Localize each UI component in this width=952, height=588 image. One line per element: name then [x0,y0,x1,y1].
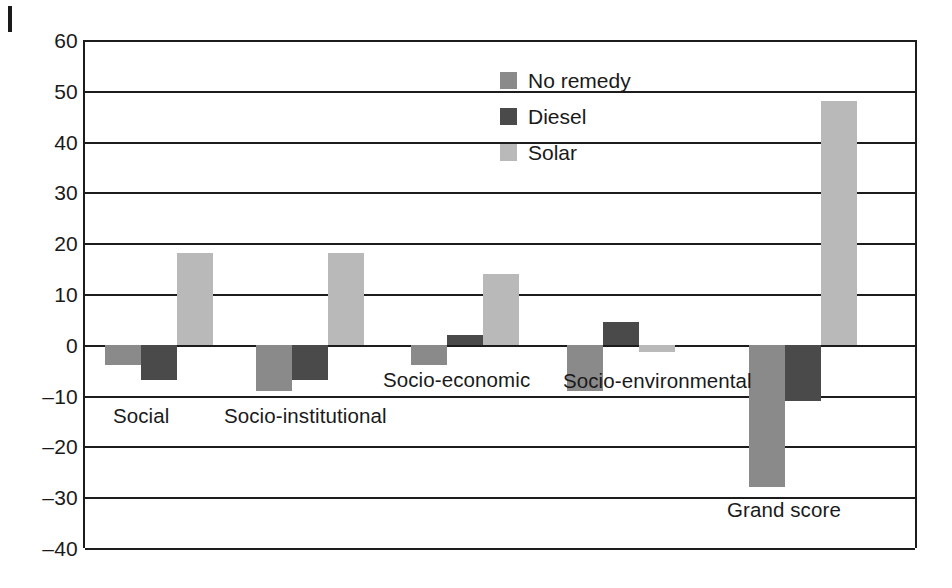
category-label: Socio-environmental [563,371,752,392]
category-label: Socio-institutional [224,406,387,427]
legend-item: Diesel [500,98,700,134]
legend-swatch-icon [500,72,517,89]
chart-figure: 6050403020100–10–20–30–40 SocialSocio-in… [0,0,952,588]
bar [749,345,785,487]
bar [256,345,292,391]
gridline-neg40 [85,548,915,550]
bar [821,101,857,345]
y-tick-label: 0 [4,334,78,355]
legend-label: Diesel [528,106,586,127]
bar [603,322,639,345]
legend-label: No remedy [528,70,631,91]
y-tick-label: 60 [4,30,78,51]
category-label: Socio-economic [383,370,530,391]
y-tick-label: 40 [4,131,78,152]
bar [639,345,675,353]
bar [483,274,519,345]
chart-legend: No remedyDieselSolar [500,62,700,170]
bar [292,345,328,381]
y-tick-label: 30 [4,182,78,203]
bar [141,345,177,381]
gridline-neg20 [85,446,915,448]
y-axis-tick-labels: 6050403020100–10–20–30–40 [0,40,78,548]
legend-swatch-icon [500,108,517,125]
y-tick-label: –30 [4,487,78,508]
bar [411,345,447,365]
category-label: Grand score [727,500,841,521]
y-tick-label: –40 [4,538,78,559]
legend-label: Solar [528,142,577,163]
y-tick-label: –10 [4,385,78,406]
bar [447,335,483,345]
legend-item: Solar [500,134,700,170]
bar [328,253,364,344]
bar [105,345,141,365]
legend-swatch-icon [500,144,517,161]
category-label: Social [113,406,169,427]
legend-item: No remedy [500,62,700,98]
y-tick-label: –20 [4,436,78,457]
y-tick-label: 50 [4,80,78,101]
gridline-20 [85,243,915,245]
gridline-60 [85,40,915,42]
gridline-30 [85,192,915,194]
y-tick-label: 20 [4,233,78,254]
bar [177,253,213,344]
y-tick-label: 10 [4,284,78,305]
bar [785,345,821,401]
page-edge-mark [8,6,12,32]
